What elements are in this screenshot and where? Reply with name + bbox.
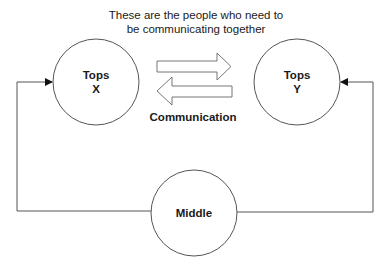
block-arrow-left-icon	[157, 77, 232, 105]
tops-x-label-line1: Tops	[83, 69, 110, 81]
tops-x-label-line2: X	[92, 83, 100, 95]
tops-x-circle	[53, 39, 139, 125]
communication-label: Communication	[150, 111, 237, 123]
node-middle[interactable]: Middle	[151, 170, 237, 256]
caption-line-1: These are the people who need to	[109, 9, 284, 21]
middle-label: Middle	[176, 207, 212, 219]
tops-y-circle	[254, 39, 340, 125]
tops-y-label-line2: Y	[293, 83, 301, 95]
tops-y-label-line1: Tops	[284, 69, 311, 81]
caption-line-2: be communicating together	[127, 23, 266, 35]
diagram-canvas: These are the people who need to be comm…	[0, 0, 389, 270]
node-tops-x[interactable]: Tops X	[53, 39, 139, 125]
node-tops-y[interactable]: Tops Y	[254, 39, 340, 125]
block-arrow-right-icon	[157, 53, 231, 80]
